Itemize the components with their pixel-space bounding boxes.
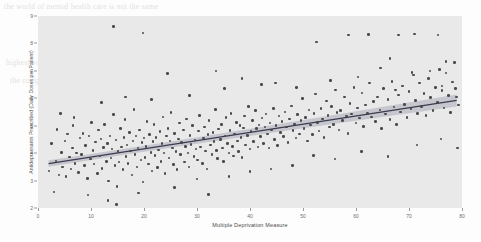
data-point	[61, 166, 64, 169]
data-point	[316, 121, 319, 124]
x-axis-tick-label: 20	[141, 213, 147, 219]
data-point	[124, 118, 127, 121]
data-point	[228, 175, 231, 178]
data-point	[454, 87, 457, 90]
data-point	[343, 96, 346, 99]
confidence-band	[49, 94, 457, 166]
data-point	[230, 112, 233, 115]
data-point	[222, 160, 225, 163]
x-axis-tick-label: 70	[406, 213, 412, 219]
data-point	[175, 150, 178, 153]
data-point	[298, 133, 301, 136]
data-point	[395, 123, 398, 126]
data-point	[226, 142, 229, 145]
data-point	[184, 145, 187, 148]
data-point	[334, 89, 337, 92]
data-point	[215, 149, 218, 152]
data-point	[80, 153, 83, 156]
data-point	[106, 142, 109, 145]
data-point	[97, 129, 100, 132]
data-point	[416, 112, 419, 115]
data-point	[336, 111, 339, 114]
data-point	[427, 77, 430, 80]
data-point	[438, 68, 441, 71]
data-point	[272, 107, 275, 110]
data-point	[112, 113, 115, 116]
data-point	[86, 177, 89, 180]
data-point	[362, 125, 365, 128]
data-point	[266, 133, 269, 136]
data-point	[150, 151, 153, 154]
x-axis-tick-label: 40	[247, 213, 253, 219]
data-point	[124, 96, 127, 99]
data-point	[235, 121, 238, 124]
data-point	[341, 119, 344, 122]
data-point	[214, 108, 217, 111]
data-point	[436, 101, 439, 104]
data-point	[260, 83, 263, 86]
data-point	[182, 129, 185, 132]
data-point	[252, 140, 255, 143]
data-point	[173, 186, 176, 189]
y-axis-tick-mark	[34, 98, 37, 99]
data-point	[339, 109, 342, 112]
data-point	[166, 72, 169, 75]
y-axis-tick-mark	[34, 70, 37, 71]
data-point	[423, 92, 426, 95]
data-point	[360, 150, 363, 153]
x-axis-tick-label: 80	[459, 213, 465, 219]
data-point	[172, 163, 175, 166]
data-point	[207, 193, 210, 196]
data-point	[105, 160, 108, 163]
data-point	[84, 144, 87, 147]
data-point	[367, 33, 370, 36]
data-point	[329, 79, 332, 82]
data-point	[237, 150, 240, 153]
data-point	[453, 61, 456, 64]
data-point	[123, 136, 126, 139]
data-point	[259, 135, 262, 138]
data-point	[212, 131, 215, 134]
data-point	[273, 138, 276, 141]
data-point	[412, 74, 415, 77]
data-point	[185, 118, 188, 121]
plot-area	[38, 16, 462, 208]
data-point	[389, 118, 392, 121]
data-point	[125, 155, 128, 158]
data-point	[160, 160, 163, 163]
data-point	[176, 168, 179, 171]
data-point	[112, 25, 115, 28]
data-point	[292, 129, 295, 132]
data-point	[122, 168, 125, 171]
data-point	[321, 118, 324, 121]
x-axis-tick-label: 50	[300, 213, 306, 219]
data-point	[216, 157, 219, 160]
data-point	[311, 133, 314, 136]
y-axis-tick-mark	[34, 125, 37, 126]
data-point	[366, 112, 369, 115]
data-point	[83, 164, 86, 167]
scatter-chart-figure: the world of mental health care is not t…	[0, 0, 481, 242]
data-point	[288, 118, 291, 121]
data-point	[394, 89, 397, 92]
data-point	[183, 161, 186, 164]
data-point	[119, 127, 122, 130]
data-point	[204, 150, 207, 153]
data-point	[401, 85, 404, 88]
data-point	[447, 94, 450, 97]
data-point	[332, 123, 335, 126]
data-point	[425, 114, 428, 117]
data-point	[134, 153, 137, 156]
x-axis-tick-mark	[197, 208, 198, 211]
data-point	[141, 141, 144, 144]
data-point	[167, 127, 170, 130]
x-axis-tick-mark	[91, 208, 92, 211]
data-point	[295, 86, 298, 89]
data-point	[276, 144, 279, 147]
data-point	[413, 33, 416, 36]
data-point	[306, 140, 309, 143]
y-axis-tick-label: 9	[30, 13, 33, 19]
data-point	[223, 87, 226, 90]
data-point	[60, 151, 63, 154]
data-point	[301, 97, 304, 100]
